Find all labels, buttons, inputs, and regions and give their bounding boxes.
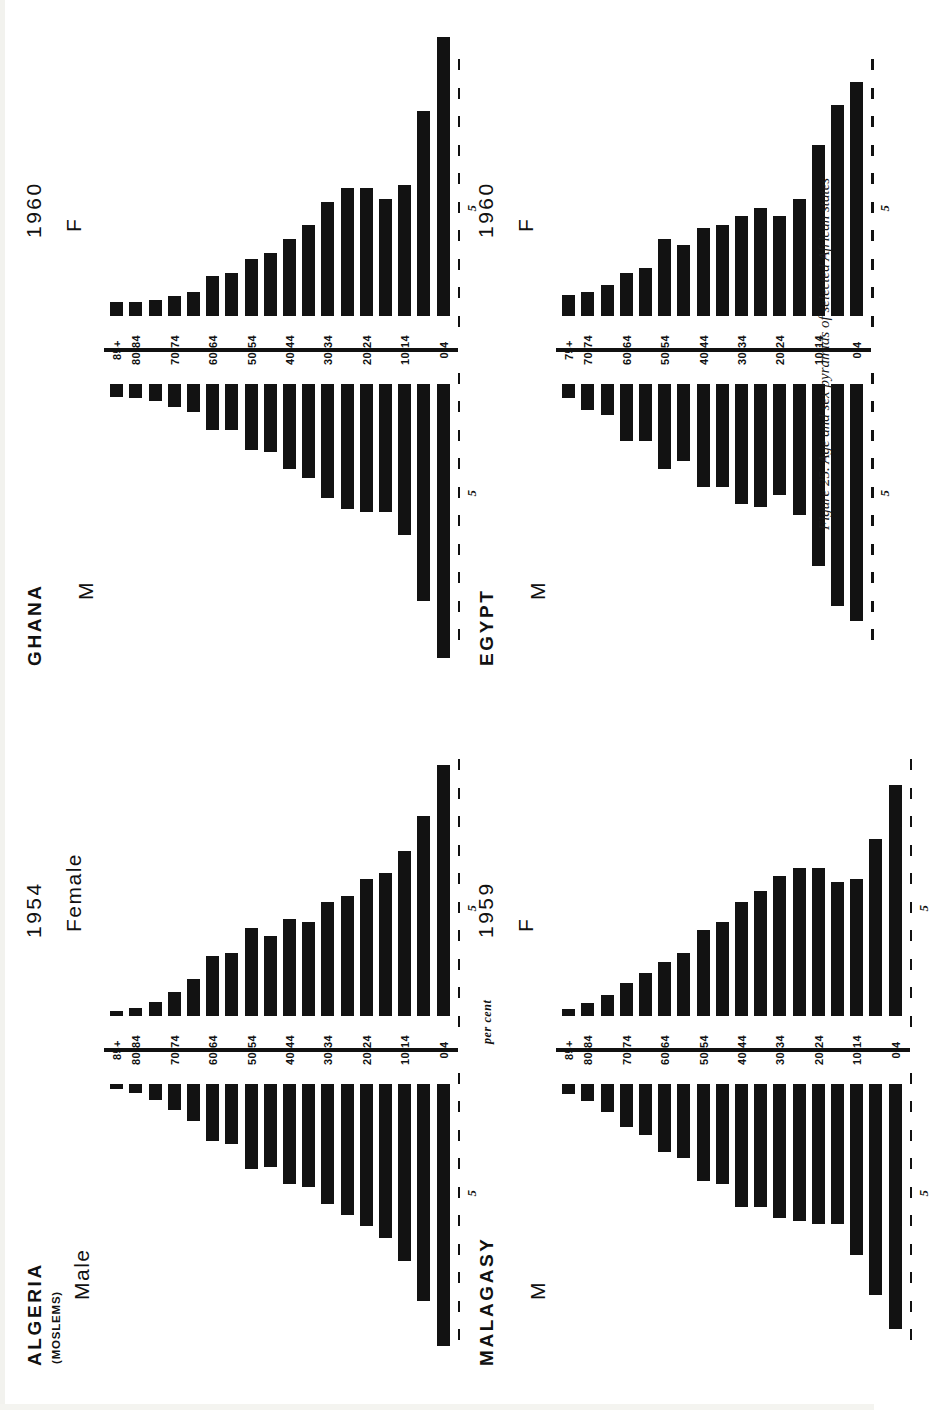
bar-male	[437, 1084, 450, 1346]
axis-tick	[871, 487, 873, 498]
age-group-label: 30-34	[322, 316, 334, 384]
age-group-label: 60-64	[621, 316, 633, 384]
female-label: Female	[62, 853, 86, 932]
axis-tick	[458, 544, 460, 555]
bar-female	[639, 973, 652, 1016]
bar-female	[716, 922, 729, 1016]
bar-male	[398, 1084, 411, 1261]
male-label: Male	[70, 1248, 94, 1300]
pyramid-algeria: ALGERIA(MOSLEMS)1954MaleFemale55per cent…	[18, 730, 492, 1370]
axis-tick	[910, 874, 912, 885]
pyramid-title: ALGERIA	[24, 1262, 46, 1366]
pyramid-title: GHANA	[24, 583, 46, 666]
bar-male	[437, 384, 450, 658]
axis-tick	[910, 959, 912, 970]
axis-tick	[871, 145, 873, 156]
age-group-label: 40-44	[736, 1016, 748, 1084]
axis-tick	[458, 1330, 460, 1341]
bar-male	[639, 384, 652, 441]
axis-tick	[458, 231, 460, 242]
axis-tick	[910, 902, 912, 913]
age-group-label: 60-64	[659, 1016, 671, 1084]
axis-tick	[910, 1216, 912, 1227]
bar-female	[417, 817, 430, 1017]
bar-female	[283, 239, 296, 316]
axis-tick	[458, 1016, 460, 1027]
axis-tick	[910, 1073, 912, 1084]
axis-tick	[871, 288, 873, 299]
bar-male	[187, 384, 200, 413]
bar-female	[321, 202, 334, 316]
bar-female	[264, 936, 277, 1016]
axis-tick-label-5: 5	[916, 1190, 932, 1197]
axis-tick	[458, 1102, 460, 1113]
axis-tick	[910, 1273, 912, 1284]
axis-tick	[458, 259, 460, 270]
bar-female	[206, 956, 219, 1016]
age-group-label: 70-74	[621, 1016, 633, 1084]
bar-female	[168, 296, 181, 316]
age-group-label: 0-4	[438, 316, 450, 384]
male-label: M	[526, 1281, 550, 1300]
axis-tick	[910, 1130, 912, 1141]
axis-tick	[458, 430, 460, 441]
axis-tick	[458, 1159, 460, 1170]
axis-tick	[910, 845, 912, 856]
bar-male	[206, 1084, 219, 1141]
axis-tick	[458, 145, 460, 156]
bar-male	[850, 1084, 863, 1255]
axis-tick	[458, 174, 460, 185]
age-group-label: 60-64	[207, 1016, 219, 1084]
axis-tick	[458, 988, 460, 999]
age-group-label: 50-54	[698, 1016, 710, 1084]
bar-male	[379, 1084, 392, 1238]
bar-female	[398, 185, 411, 316]
bar-female	[697, 228, 710, 316]
age-group-label: 70-74	[169, 316, 181, 384]
bar-male	[850, 384, 863, 621]
bar-female	[225, 273, 238, 316]
bar-male	[793, 1084, 806, 1221]
axis-tick	[910, 1102, 912, 1113]
bar-female	[812, 868, 825, 1016]
axis-tick	[871, 117, 873, 128]
bar-male	[658, 384, 671, 470]
age-group-label: 50-54	[246, 316, 258, 384]
bar-female	[437, 765, 450, 1016]
axis-tick	[458, 1273, 460, 1284]
bar-female	[754, 891, 767, 1016]
axis-tick	[871, 373, 873, 384]
bar-male	[321, 384, 334, 498]
bar-male	[225, 1084, 238, 1144]
bar-male	[187, 1084, 200, 1121]
bar-male	[658, 1084, 671, 1152]
axis-tick	[458, 1301, 460, 1312]
bar-female	[658, 239, 671, 316]
axis-tick	[910, 1244, 912, 1255]
axis-tick	[871, 231, 873, 242]
axis-tick	[458, 88, 460, 99]
axis-tick	[871, 459, 873, 470]
bar-female	[149, 300, 162, 316]
bar-female	[562, 1009, 575, 1016]
female-label: F	[514, 918, 538, 932]
axis-tick	[458, 459, 460, 470]
axis-tick	[458, 1187, 460, 1198]
bar-female	[283, 919, 296, 1016]
age-group-label: 85+	[563, 1016, 575, 1084]
axis-tick	[871, 516, 873, 527]
bar-male	[677, 384, 690, 461]
age-group-label: 20-24	[813, 1016, 825, 1084]
axis-tick	[910, 988, 912, 999]
axis-tick	[458, 1244, 460, 1255]
age-group-label: 0-4	[438, 1016, 450, 1084]
bar-male	[283, 384, 296, 470]
pyramid-title: MALAGASY	[476, 1236, 498, 1366]
axis-tick	[871, 316, 873, 327]
age-group-label: 0-4	[851, 316, 863, 384]
axis-tick	[458, 487, 460, 498]
pyramid-year: 1959	[474, 881, 498, 938]
age-group-label: 40-44	[698, 316, 710, 384]
axis-tick	[871, 60, 873, 71]
bar-female	[398, 851, 411, 1016]
